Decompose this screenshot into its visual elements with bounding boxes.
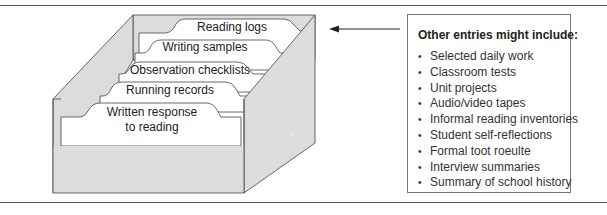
bullet-icon: • (418, 112, 430, 128)
bullet-icon: • (418, 49, 430, 65)
bullet-icon: • (418, 128, 430, 144)
other-entries-box: Other entries might include: •Selected d… (407, 14, 571, 193)
list-item: •Formal toot roeulte (418, 144, 578, 160)
box-front-wall (53, 146, 244, 193)
list-item: •Unit projects (418, 81, 578, 97)
list-item: •Student self-reflections (418, 128, 578, 144)
divider-label: Writing samples (162, 40, 247, 54)
bullet-icon: • (418, 81, 430, 97)
left-arrow-icon (329, 26, 400, 33)
bullet-icon: • (418, 65, 430, 81)
other-entries-title: Other entries might include: (418, 28, 578, 42)
divider-label: Reading logs (197, 20, 267, 34)
bullet-icon: • (418, 160, 430, 176)
bullet-icon: • (418, 144, 430, 160)
list-item: •Informal reading inventories (418, 112, 578, 128)
divider-label-line1: Written response (107, 105, 198, 119)
list-item: •Classroom tests (418, 65, 578, 81)
list-item: •Summary of school history (418, 175, 578, 191)
other-entries-list: •Selected daily work •Classroom tests •U… (418, 49, 578, 191)
list-item: •Interview summaries (418, 160, 578, 176)
divider-label: Observation checklists (130, 63, 250, 77)
bullet-icon: • (418, 96, 430, 112)
list-item: •Audio/video tapes (418, 96, 578, 112)
divider-label-line2: to reading (125, 120, 178, 134)
list-item: •Selected daily work (418, 49, 578, 65)
divider-label: Running records (126, 83, 214, 97)
bullet-icon: • (418, 175, 430, 191)
